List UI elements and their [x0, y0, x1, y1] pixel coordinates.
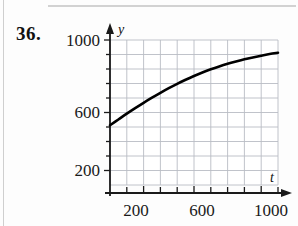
- y-tick-label-200: 200: [75, 161, 101, 180]
- y-tick-label-1000: 1000: [66, 31, 100, 50]
- y-tick-label-600: 600: [75, 103, 101, 122]
- y-axis-variable-label: y: [116, 22, 125, 37]
- figure-root: 36.: [0, 0, 298, 226]
- x-axis-ticks: [127, 186, 278, 193]
- x-tick-label-200: 200: [123, 201, 149, 220]
- line-chart: y t 1000 600 200 200 600 1000: [0, 0, 298, 226]
- x-tick-label-600: 600: [189, 201, 215, 220]
- x-tick-label-1000: 1000: [254, 201, 288, 220]
- x-axis: [105, 189, 292, 197]
